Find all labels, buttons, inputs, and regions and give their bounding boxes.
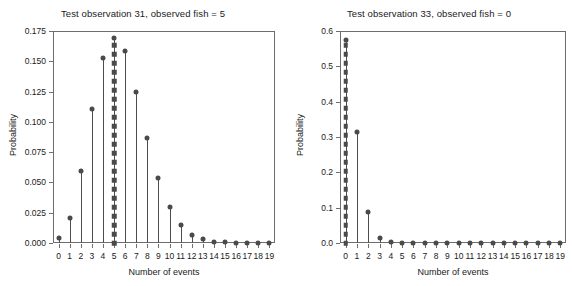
observed-value-marker [112, 160, 117, 165]
data-point-marker [422, 241, 427, 246]
data-point-marker [178, 222, 183, 227]
observed-value-marker [112, 151, 117, 156]
observed-value-marker [343, 178, 348, 183]
x-axis-tick-label: 13 [488, 251, 497, 261]
stem-line [92, 109, 93, 243]
x-axis-tick-label: 5 [400, 251, 405, 261]
observed-value-marker [343, 124, 348, 129]
x-axis-tick-label: 15 [220, 251, 229, 261]
data-point-marker [112, 35, 117, 40]
observed-value-marker [343, 151, 348, 156]
data-point-marker [388, 240, 393, 245]
y-axis-tick-label: 0.175 [25, 26, 46, 36]
observed-value-marker [112, 241, 117, 246]
observed-value-marker [343, 43, 348, 48]
y-axis-tick-label: 0.5 [321, 61, 333, 71]
data-point-marker [167, 205, 172, 210]
y-axis-tick-label: 0.050 [25, 177, 46, 187]
data-point-marker [89, 106, 94, 111]
observed-value-marker [112, 169, 117, 174]
y-axis-tick-label: 0.125 [25, 87, 46, 97]
data-point-marker [366, 210, 371, 215]
observed-value-marker [343, 142, 348, 147]
stem-line [136, 92, 137, 243]
x-axis-tick-label: 7 [134, 251, 139, 261]
x-axis-tick-label: 6 [411, 251, 416, 261]
x-axis-tick-label: 4 [388, 251, 393, 261]
observed-value-marker [112, 142, 117, 147]
data-point-marker [535, 241, 540, 246]
x-axis-tick-mark [81, 244, 82, 248]
x-axis-tick-mark [125, 244, 126, 248]
observed-value-marker [112, 124, 117, 129]
x-axis-tick-label: 14 [209, 251, 218, 261]
data-point-marker [123, 48, 128, 53]
data-point-marker [234, 240, 239, 245]
observed-value-marker [112, 43, 117, 48]
x-axis-tick-mark [136, 244, 137, 248]
x-axis-tick-label: 16 [522, 251, 531, 261]
x-axis-tick-label: 11 [466, 251, 475, 261]
observed-value-marker [343, 52, 348, 57]
y-axis-tick-mark [49, 61, 53, 62]
observed-value-marker [112, 232, 117, 237]
y-axis-tick-mark [49, 182, 53, 183]
y-axis-tick-label: 0.0 [321, 238, 333, 248]
y-axis-tick-mark [49, 31, 53, 32]
y-axis-tick-label: 0.150 [25, 56, 46, 66]
x-axis-tick-label: 13 [198, 251, 207, 261]
x-axis-tick-label: 1 [355, 251, 360, 261]
y-axis-tick-mark [336, 31, 340, 32]
observed-value-marker [112, 106, 117, 111]
stem-line [357, 132, 358, 243]
data-point-marker [377, 235, 382, 240]
data-point-marker [78, 168, 83, 173]
x-axis-tick-label: 9 [445, 251, 450, 261]
plot-layer: 0.00.10.20.30.40.50.60123456789101112131… [286, 0, 572, 286]
observed-value-marker [112, 97, 117, 102]
x-axis-tick-mark [158, 244, 159, 248]
chart-panel-left: Test observation 31, observed fish = 5 P… [0, 0, 286, 286]
y-axis-tick-mark [49, 92, 53, 93]
x-axis-tick-label: 17 [533, 251, 542, 261]
data-point-marker [256, 241, 261, 246]
stem-line [158, 178, 159, 243]
x-axis-tick-mark [357, 244, 358, 248]
observed-value-marker [112, 79, 117, 84]
x-axis-tick-label: 10 [454, 251, 463, 261]
stem-line [368, 212, 369, 243]
stem-line [81, 171, 82, 243]
observed-value-marker [112, 223, 117, 228]
data-point-marker [501, 241, 506, 246]
observed-value-marker [343, 205, 348, 210]
x-axis-tick-label: 18 [254, 251, 263, 261]
x-axis-tick-label: 12 [477, 251, 486, 261]
x-axis-tick-label: 18 [544, 251, 553, 261]
x-axis-tick-label: 3 [377, 251, 382, 261]
data-point-marker [211, 239, 216, 244]
observed-value-marker [343, 61, 348, 66]
data-point-marker [354, 129, 359, 134]
observed-value-marker [343, 232, 348, 237]
observed-value-marker [112, 205, 117, 210]
data-point-marker [434, 241, 439, 246]
observed-value-marker [343, 196, 348, 201]
data-point-marker [456, 241, 461, 246]
y-axis-tick-mark [336, 66, 340, 67]
observed-value-marker [343, 88, 348, 93]
x-axis-tick-mark [103, 244, 104, 248]
data-point-marker [100, 55, 105, 60]
x-axis-tick-label: 16 [231, 251, 240, 261]
data-point-marker [245, 240, 250, 245]
observed-value-marker [343, 187, 348, 192]
x-axis-tick-mark [170, 244, 171, 248]
x-axis-tick-mark [203, 244, 204, 248]
y-axis-tick-mark [336, 243, 340, 244]
observed-value-marker [343, 214, 348, 219]
observed-value-marker [112, 187, 117, 192]
data-point-marker [400, 240, 405, 245]
x-axis-tick-label: 19 [265, 251, 274, 261]
x-axis-tick-label: 17 [243, 251, 252, 261]
stem-line [147, 138, 148, 243]
data-point-marker [156, 176, 161, 181]
